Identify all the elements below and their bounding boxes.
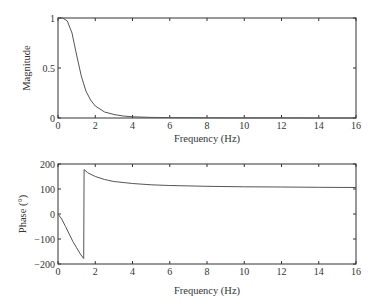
magnitude-curve [58, 18, 356, 118]
phase-plot: 0246810121416 −200−1000100200 Frequency … [17, 159, 361, 298]
phase-y-ticks: −200−1000100200 [34, 159, 356, 270]
bode-plot: 0246810121416 00.51 Frequency (Hz) Magni… [0, 0, 380, 306]
magnitude-plot: 0246810121416 00.51 Frequency (Hz) Magni… [21, 13, 361, 146]
y-tick-label: 100 [40, 184, 55, 195]
y-tick-label: 0 [50, 209, 55, 220]
x-tick-label: 8 [205, 266, 210, 277]
x-tick-label: 16 [351, 120, 361, 131]
y-tick-label: −100 [34, 234, 55, 245]
y-tick-label: 200 [40, 159, 55, 170]
x-tick-label: 0 [56, 266, 61, 277]
phase-x-ticks: 0246810121416 [56, 164, 362, 277]
magnitude-axes-box [58, 18, 356, 118]
x-tick-label: 4 [130, 266, 135, 277]
y-tick-label: −200 [34, 259, 55, 270]
y-tick-label: 1 [50, 13, 55, 24]
x-tick-label: 14 [314, 266, 324, 277]
x-tick-label: 4 [130, 120, 135, 131]
phase-curve [58, 170, 356, 259]
x-tick-label: 2 [93, 120, 98, 131]
x-tick-label: 16 [351, 266, 361, 277]
phase-x-axis-label: Frequency (Hz) [174, 285, 241, 297]
x-tick-label: 6 [167, 266, 172, 277]
magnitude-y-axis-label: Magnitude [21, 45, 32, 91]
x-tick-label: 10 [239, 266, 249, 277]
magnitude-y-ticks: 00.51 [43, 13, 357, 124]
x-tick-label: 2 [93, 266, 98, 277]
x-tick-label: 12 [277, 266, 287, 277]
x-tick-label: 10 [239, 120, 249, 131]
x-tick-label: 8 [205, 120, 210, 131]
y-tick-label: 0.5 [43, 63, 56, 74]
x-tick-label: 12 [277, 120, 287, 131]
x-tick-label: 6 [167, 120, 172, 131]
x-tick-label: 14 [314, 120, 324, 131]
y-tick-label: 0 [50, 113, 55, 124]
phase-y-axis-label: Phase (°) [17, 194, 29, 233]
magnitude-x-axis-label: Frequency (Hz) [174, 133, 241, 145]
x-tick-label: 0 [56, 120, 61, 131]
magnitude-x-ticks: 0246810121416 [56, 18, 362, 131]
